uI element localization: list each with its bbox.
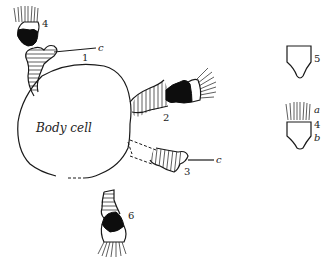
label-a: a <box>314 104 320 115</box>
side-figure-5: 5 <box>287 46 320 78</box>
body-cell-label: Body cell <box>35 121 92 135</box>
label-2: 2 <box>163 112 169 123</box>
side-figure-4ab: a 4 b <box>286 102 320 149</box>
label-3: 3 <box>184 166 190 177</box>
label-6: 6 <box>128 210 134 221</box>
structure-6: 6 <box>98 190 134 257</box>
label-1: 1 <box>82 52 88 63</box>
label-b: b <box>314 132 320 143</box>
label-4b: 4 <box>314 119 320 130</box>
structure-2: 2 <box>130 68 216 123</box>
pointer-c-3: c <box>216 154 222 165</box>
structure-4-detached: 4 <box>14 6 48 46</box>
label-5: 5 <box>314 53 320 64</box>
label-4: 4 <box>42 18 48 29</box>
diagram-canvas: Body cell c 1 4 <box>0 0 330 269</box>
body-cell: Body cell <box>18 64 132 178</box>
pointer-c-1: c <box>98 42 104 53</box>
structure-3: c 3 <box>130 140 222 177</box>
